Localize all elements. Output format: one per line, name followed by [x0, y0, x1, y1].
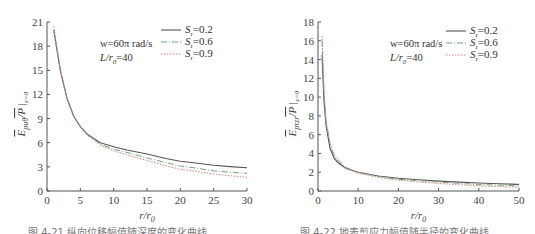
y-tick-label: 3	[38, 161, 44, 173]
annotation-frequency: w=60π rad/s	[390, 38, 442, 49]
series-line-2	[54, 30, 247, 173]
y-tick-label: 12	[32, 88, 43, 100]
y-tick-label: 8	[309, 110, 315, 122]
y-axis-label: Epτzr/P|z=0	[286, 90, 301, 137]
caption-right: 图 4-22 地表剪应力幅值随半径的变化曲线	[300, 224, 489, 234]
chart-right-svg: 02468101214161801020304050r/r0Epτzr/P|z=…	[270, 0, 535, 234]
x-tick-label: 20	[175, 194, 187, 206]
y-axis-label: Epuθ/P|z=0	[15, 92, 30, 138]
series-line-1	[54, 30, 247, 168]
y-tick-label: 0	[38, 185, 44, 197]
x-tick-label: 0	[315, 194, 321, 206]
y-tick-label: 16	[303, 35, 315, 47]
x-tick-label: 15	[142, 194, 154, 206]
x-axis-label: r/r0	[411, 209, 427, 224]
chart-left-svg: 036912151821051015202530r/r0Epuθ/P|z=0w=…	[0, 0, 270, 234]
x-tick-label: 30	[242, 194, 254, 206]
y-tick-label: 18	[303, 16, 315, 28]
y-tick-label: 6	[309, 129, 315, 141]
annotation-frequency: w=60π rad/s	[100, 38, 152, 49]
y-tick-label: 4	[309, 147, 315, 159]
y-tick-label: 2	[309, 166, 315, 178]
x-tick-label: 0	[44, 194, 50, 206]
x-tick-label: 50	[514, 194, 526, 206]
x-axis-label: r/r0	[139, 209, 155, 224]
y-tick-label: 12	[303, 72, 314, 84]
annotation-length-ratio: L/r0=40	[99, 52, 133, 66]
y-tick-label: 15	[32, 64, 44, 76]
y-tick-label: 18	[32, 40, 44, 52]
x-tick-label: 20	[393, 194, 405, 206]
svg-text:Sr=0.9: Sr=0.9	[470, 48, 498, 63]
x-tick-label: 10	[108, 194, 120, 206]
caption-left: 图 4-21 纵向位移幅值随深度的变化曲线	[28, 224, 207, 234]
y-tick-label: 0	[309, 185, 315, 197]
y-tick-label: 10	[303, 91, 315, 103]
chart-left-displacement: 036912151821051015202530r/r0Epuθ/P|z=0w=…	[0, 0, 270, 234]
y-tick-label: 6	[38, 137, 44, 149]
legend-item: Sr=0.9	[446, 48, 498, 63]
chart-right-shear-stress: 02468101214161801020304050r/r0Epτzr/P|z=…	[270, 0, 535, 234]
y-tick-label: 21	[32, 16, 43, 28]
x-tick-label: 40	[473, 194, 485, 206]
annotation-length-ratio: L/r0=40	[389, 52, 423, 66]
x-tick-label: 25	[208, 194, 220, 206]
x-tick-label: 5	[78, 194, 84, 206]
legend-item: Sr=0.9	[161, 47, 213, 62]
x-tick-label: 10	[353, 194, 365, 206]
series-line-1	[322, 55, 519, 185]
svg-text:Sr=0.9: Sr=0.9	[185, 47, 213, 62]
y-tick-label: 14	[303, 54, 315, 66]
x-tick-label: 30	[433, 194, 445, 206]
y-tick-label: 9	[38, 113, 44, 125]
